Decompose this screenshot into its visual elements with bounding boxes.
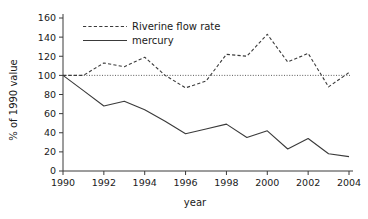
- y-axis-ticks: 020406080100120140160: [38, 12, 63, 176]
- y-tick-label: 20: [44, 146, 56, 157]
- x-tick-label: 2004: [337, 177, 361, 188]
- y-tick-label: 100: [38, 70, 56, 81]
- legend-label-mercury: mercury: [132, 35, 174, 46]
- y-axis-title: % of 1990 value: [8, 59, 19, 140]
- chart-legend: Riverine flow rate mercury: [83, 21, 220, 46]
- x-axis-ticks: 19901992199419961998200020022004: [51, 171, 361, 188]
- chart-container: 020406080100120140160 199019921994199619…: [0, 0, 368, 219]
- line-chart: 020406080100120140160 199019921994199619…: [0, 0, 368, 219]
- series-line-mercury: [63, 75, 349, 156]
- x-tick-label: 1990: [51, 177, 75, 188]
- y-tick-label: 140: [38, 32, 56, 43]
- y-tick-label: 40: [44, 127, 56, 138]
- series-line-riverine-flow-rate: [63, 34, 349, 88]
- y-tick-label: 160: [38, 12, 56, 23]
- axes-group: [63, 14, 353, 171]
- x-tick-label: 2000: [255, 177, 279, 188]
- y-tick-label: 120: [38, 51, 56, 62]
- x-tick-label: 1998: [214, 177, 238, 188]
- x-tick-label: 1996: [173, 177, 197, 188]
- y-tick-label: 0: [50, 165, 56, 176]
- y-tick-label: 60: [44, 108, 56, 119]
- y-tick-label: 80: [44, 89, 56, 100]
- x-axis-title: year: [184, 197, 207, 208]
- x-tick-label: 1994: [133, 177, 157, 188]
- legend-label-riverine-flow-rate: Riverine flow rate: [132, 21, 220, 32]
- x-tick-label: 1992: [92, 177, 116, 188]
- x-tick-label: 2002: [296, 177, 320, 188]
